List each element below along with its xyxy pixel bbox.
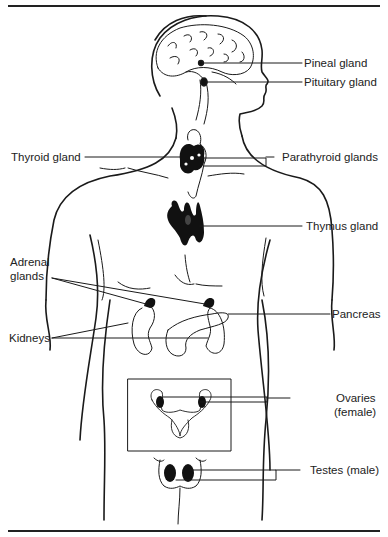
label-thyroid-gland: Thyroid gland [11, 151, 81, 164]
testis-left [164, 464, 176, 482]
label-adrenal-glands-line2: glands [10, 270, 44, 283]
testis-right [182, 464, 194, 482]
pancreas [166, 313, 228, 356]
label-adrenal-glands-line1: Adrenal [10, 256, 50, 269]
ovary-left [156, 396, 164, 408]
brain [156, 25, 253, 124]
adrenal-gland-right [203, 298, 214, 308]
label-thymus-gland: Thymus gland [306, 220, 378, 233]
label-ovaries-line2: (female) [334, 406, 376, 419]
label-pituitary-gland: Pituitary gland [304, 76, 377, 89]
body-outline [46, 136, 335, 520]
label-ovaries-line1: Ovaries [336, 392, 376, 405]
kidneys [132, 306, 224, 354]
scrotum [154, 458, 206, 524]
label-testes: Testes (male) [310, 464, 379, 477]
label-pancreas: Pancreas [332, 308, 381, 321]
ovaries-inset-box [128, 379, 231, 451]
label-pineal-gland: Pineal gland [304, 57, 367, 70]
adrenal-gland-left [144, 298, 155, 308]
leader-lines [52, 63, 330, 480]
label-parathyroid-glands: Parathyroid glands [282, 151, 378, 164]
label-kidneys: Kidneys [9, 332, 50, 345]
